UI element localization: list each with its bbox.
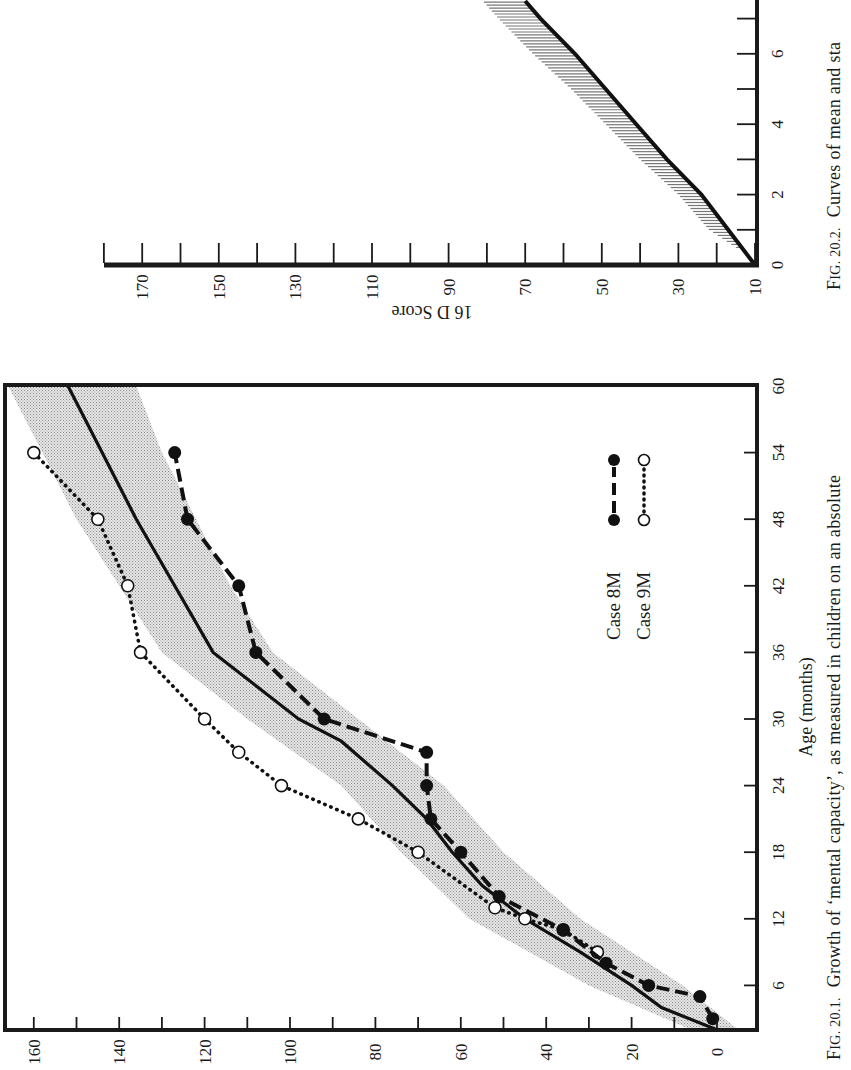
case-9m-point [233,746,245,758]
score-tick-label: 150 [210,274,229,300]
y-axis-title: 16 D Score [391,302,472,322]
score-tick-label: 90 [440,279,459,296]
plot-area-2 [483,0,755,265]
age-axis-ticks-2: 0246 [737,19,787,270]
score-tick-label: 80 [366,1044,385,1061]
age-tick-label: 2 [768,190,787,199]
filled-circle-marker-icon [608,514,620,526]
case-9m-point [275,780,287,792]
figure-caption-2: FIG. 20.2.Curves of mean and sta [824,42,844,290]
score-tick-label: 30 [669,279,688,296]
score-tick-label: 10 [746,279,765,296]
score-tick-label: 40 [537,1044,556,1061]
age-tick-label: 48 [769,511,788,528]
svg-text:FIG. 20.2.Curves of mean and s: FIG. 20.2.Curves of mean and sta [824,42,844,290]
case-9m-point [489,902,501,914]
age-tick-label: 12 [769,910,788,927]
case-9m-point [135,646,147,658]
figure-caption: FIG. 20.1.Growth of ‘mental capacity’, a… [824,475,844,1060]
age-tick-label: 18 [769,844,788,861]
case-9m-point [122,580,134,592]
case-8m-point [454,846,467,859]
case-8m-point [493,890,506,903]
score-tick-label: 0 [708,1048,727,1057]
score-tick-label: 60 [452,1044,471,1061]
open-circle-marker-icon [639,515,650,526]
legend-label-case-9m: Case 9M [633,572,654,640]
age-tick-label: 60 [769,378,788,395]
legend-item-case-9m: Case 9M [633,455,654,641]
case-9m-point [92,513,104,525]
x-axis-title: Age (months) [796,657,817,756]
case-8m-point [642,979,655,992]
score-tick-label: 110 [363,275,382,300]
score-tick-label: 120 [196,1039,215,1065]
case-8m-point [181,513,194,526]
case-9m-point [519,913,531,925]
case-8m-point [318,713,331,726]
score-tick-label: 70 [516,279,535,296]
score-axis-ticks: 020406080100120140160 [25,1017,727,1065]
age-tick-label: 24 [769,777,788,795]
legend-label-case-8m: Case 8M [603,572,624,640]
case-9m-point [199,713,211,725]
caption-number: IG. 20.1. [828,997,843,1049]
age-tick-label: 4 [768,119,787,128]
age-tick-label: 6 [769,981,788,990]
caption-body: Growth of ‘mental capacity’, as measured… [824,475,844,987]
case-8m-line [175,453,713,1019]
case-8m-point [232,579,245,592]
plot-area [8,386,738,1030]
case-8m-point [420,779,433,792]
score-tick-label: 20 [623,1044,642,1061]
age-tick-label: 0 [768,261,787,270]
legend-item-case-8m: Case 8M [603,454,624,640]
case-8m-point [168,446,181,459]
caption-prefix: F [824,280,844,290]
case-8m-point [424,812,437,825]
mean-line-2 [525,1,755,265]
score-tick-label: 160 [25,1039,44,1065]
filled-circle-marker-icon [608,454,620,466]
score-tick-label: 130 [286,274,305,300]
case-8m-point [599,957,612,970]
age-tick-label: 54 [769,444,788,462]
score-tick-label: 50 [593,279,612,296]
score-tick-label: 170 [133,274,152,300]
case-9m-point [28,447,40,459]
case-8m-point [693,990,706,1003]
score-axis-ticks-2: 1030507090110130150170 [104,243,765,300]
age-axis-ticks: 6121824303642485460 [744,378,788,990]
age-tick-label: 36 [769,644,788,661]
case-8m-point [420,746,433,759]
caption-number: IG. 20.2. [828,227,843,279]
score-tick-label: 100 [281,1039,300,1065]
case-8m-point [249,646,262,659]
case-9m-point [352,813,364,825]
age-tick-label: 42 [769,577,788,594]
figure-20-1: 020406080100120140160 612182430364248546… [5,378,844,1065]
age-tick-label: 30 [769,711,788,728]
case-9m-point [412,846,424,858]
score-tick-label: 140 [110,1039,129,1065]
case-8m-point [557,923,570,936]
age-tick-label: 6 [768,50,787,59]
caption-prefix: F [824,1050,844,1060]
caption-body: Curves of mean and sta [824,42,844,218]
figure-20-2: 1030507090110130150170 0246 16 D Score F… [104,0,844,322]
svg-text:FIG. 20.1.Growth of ‘mental ca: FIG. 20.1.Growth of ‘mental capacity’, a… [824,475,844,1060]
open-circle-marker-icon [639,455,650,466]
figure-page: 020406080100120140160 612182430364248546… [0,0,851,1070]
legend: Case 8M Case 9M [603,454,654,640]
